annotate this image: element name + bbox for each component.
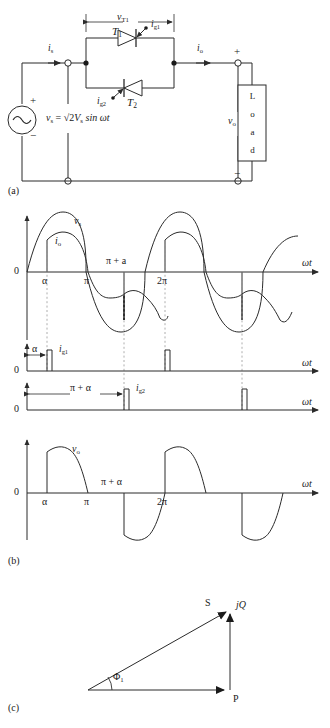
- plot2-axes: [27, 344, 318, 371]
- plot3-zero-label: 0: [14, 404, 19, 414]
- plot4-axis-label: ωt: [302, 479, 312, 489]
- power-triangle: [88, 612, 230, 690]
- triangle-vertex-jq: jQ: [236, 600, 246, 610]
- load-letter-l: L: [248, 92, 257, 101]
- load-letter-a: a: [248, 128, 257, 137]
- plot4-axes: [27, 440, 318, 540]
- vt1-dimension: [86, 14, 174, 32]
- vo-circuit-label: vo: [228, 116, 236, 127]
- trace-vo-label: vo: [72, 444, 80, 455]
- plot2-dimension-alpha: α: [32, 344, 37, 354]
- plot2-axis-label: ωt: [302, 358, 312, 368]
- source-minus-sign: −: [30, 130, 36, 141]
- figure-root: vT1 T1 ig1 T2 ig2 is io + − vs = √2Vs si…: [0, 0, 330, 728]
- plot3-trace-label: ig2: [136, 384, 145, 394]
- load-letter-o: o: [248, 110, 257, 119]
- plot4-zero-label: 0: [14, 487, 19, 497]
- plot4-tick-pi: π: [84, 497, 89, 507]
- thyristor-t1-gate-lead: [137, 26, 148, 37]
- plot4-tick-two-pi: 2π: [157, 497, 167, 507]
- plot1-tick-alpha: α: [42, 276, 47, 286]
- vo-minus-sign: −: [234, 168, 240, 179]
- thyristor-branch: [86, 38, 174, 88]
- trace-io-8: [280, 312, 292, 322]
- trace-io-label: io: [55, 236, 61, 247]
- trace-vo-3: [165, 447, 206, 493]
- trace-vo-1: [47, 447, 88, 493]
- triangle-vertex-p: P: [233, 694, 239, 704]
- io-label: io: [197, 44, 203, 54]
- triangle-vertex-s: S: [205, 598, 211, 608]
- plot3-dimension-pi-plus-alpha: π + α: [70, 383, 91, 393]
- thyristor-t2-label: T2: [127, 97, 137, 109]
- is-label: is: [48, 44, 53, 54]
- plot1-tick-two-pi: 2π: [157, 276, 167, 286]
- pulse-ig1-1: [47, 350, 52, 371]
- trace-vo-4: [242, 493, 283, 540]
- trace-io-4: [242, 291, 280, 320]
- plot1-tick-pi-plus-alpha: π + a: [106, 256, 126, 266]
- trace-io-7: [160, 316, 168, 320]
- thyristor-t2-symbol: [124, 79, 142, 97]
- plot3-axis-label: ωt: [302, 397, 312, 407]
- vo-plus-sign: +: [234, 46, 240, 57]
- pulse-ig1-2: [165, 350, 170, 371]
- thyristor-t2-gate-lead: [111, 89, 123, 100]
- plot4-tick-pi-plus-alpha: π + α: [101, 477, 122, 487]
- vt1-label: vT1: [117, 12, 129, 23]
- trace-vs-label: vs: [74, 216, 81, 227]
- triangle-angle-phi1: Φ1: [113, 672, 124, 683]
- ig1-label: ig1: [151, 20, 160, 30]
- load-box: [238, 63, 266, 181]
- plot4-tick-alpha: α: [42, 497, 47, 507]
- source-branch: [8, 63, 36, 181]
- part-label-b: (b): [8, 556, 20, 566]
- node-right: [171, 60, 176, 65]
- ig2-label: ig2: [97, 97, 106, 107]
- part-label-c: (c): [8, 703, 19, 713]
- plot1-zero-label: 0: [14, 266, 19, 276]
- plot1-tick-pi: π: [84, 276, 89, 286]
- pulse-ig2-2: [242, 389, 247, 410]
- pulse-ig2-1: [124, 389, 129, 410]
- terminal-load-top: [235, 60, 241, 66]
- node-left: [83, 60, 88, 65]
- plot2-zero-label: 0: [14, 365, 19, 375]
- plot1-axis-label: ωt: [302, 258, 312, 268]
- source-plus-sign: +: [30, 95, 36, 106]
- terminal-source-top: [65, 60, 71, 66]
- part-label-a: (a): [8, 186, 19, 196]
- load-letter-d: d: [248, 146, 257, 155]
- thyristor-t1-label: T1: [112, 26, 122, 38]
- figure-canvas: [0, 0, 330, 728]
- source-equation: vs = √2Vs sin ωt: [46, 113, 110, 124]
- plot2-trace-label: ig1: [59, 345, 68, 355]
